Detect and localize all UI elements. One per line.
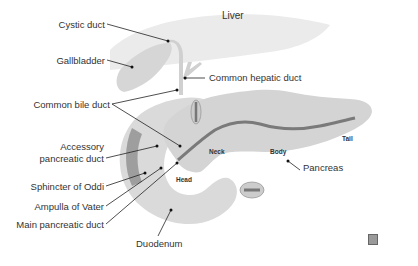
label-tail: Tail (342, 135, 353, 142)
label-ampulla-of-vater: Ampulla of Vater (0, 201, 104, 212)
publisher-logo-icon (368, 234, 378, 245)
label-body: Body (270, 148, 286, 155)
label-gallbladder: Gallbladder (20, 55, 105, 66)
label-neck: Neck (209, 148, 225, 155)
label-duodenum: Duodenum (136, 238, 182, 249)
label-accessory-pancreatic-duct-line2: pancreatic duct (20, 153, 104, 164)
label-pancreas: Pancreas (303, 162, 343, 173)
label-sphincter-of-oddi: Sphincter of Oddi (0, 181, 104, 192)
label-main-pancreatic-duct: Main pancreatic duct (0, 219, 104, 230)
label-liver: Liver (222, 10, 244, 21)
label-accessory-pancreatic-duct-line1: Accessory (20, 141, 104, 152)
label-common-bile-duct: Common bile duct (0, 99, 110, 110)
label-cystic-duct: Cystic duct (20, 19, 105, 30)
label-head: Head (176, 176, 192, 183)
label-common-hepatic-duct: Common hepatic duct (209, 72, 301, 83)
